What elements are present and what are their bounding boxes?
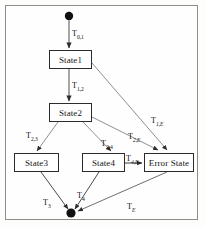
state-label-state4: State4 (92, 158, 115, 168)
edge-label-t4-sub: 4 (82, 196, 85, 202)
edge-label-t01: T0,1 (72, 30, 84, 40)
state-label-state3: State3 (25, 158, 48, 168)
edge-te (78, 172, 167, 211)
edge-label-t3: T3 (43, 199, 51, 209)
diagram-edges (0, 0, 205, 227)
edge-label-t3-sub: 3 (48, 203, 51, 209)
edge-label-t2e: T2,E (128, 133, 141, 143)
edge-label-t4: T4 (77, 192, 85, 202)
edge-label-t12: T1,2 (72, 82, 84, 92)
edge-label-t24-sub: 2,4 (106, 144, 113, 150)
final-node (66, 208, 75, 217)
edge-label-t23-sub: 2,3 (31, 136, 38, 142)
state-box-state4[interactable]: State4 (82, 153, 125, 172)
state-label-state2: State2 (59, 108, 82, 118)
edge-label-t24: T2,4 (101, 140, 113, 150)
edge-label-te-sub: E (132, 207, 135, 213)
edge-label-te: TE (127, 203, 135, 213)
edge-label-t1e: T1,E (151, 117, 164, 127)
state-diagram-canvas: State1 State2 State3 State4 Error State … (0, 0, 205, 227)
edge-label-t1e-sub: 1,E (156, 121, 164, 127)
edge-label-t4e: T4,E (126, 155, 139, 165)
state-box-state3[interactable]: State3 (14, 153, 59, 172)
edge-label-t2e-sub: 2,E (133, 137, 141, 143)
edge-label-t4e-sub: 4,E (131, 159, 139, 165)
state-box-state2[interactable]: State2 (49, 103, 92, 122)
state-label-error-state: Error State (149, 158, 189, 168)
state-box-state1[interactable]: State1 (49, 50, 92, 69)
state-label-state1: State1 (59, 55, 82, 65)
state-box-error-state[interactable]: Error State (144, 153, 194, 172)
edge-label-t01-sub: 0,1 (77, 34, 84, 40)
edge-label-t23: T2,3 (26, 132, 38, 142)
edge-t23 (37, 122, 58, 151)
initial-node (65, 12, 73, 20)
edge-label-t12-sub: 1,2 (77, 86, 84, 92)
